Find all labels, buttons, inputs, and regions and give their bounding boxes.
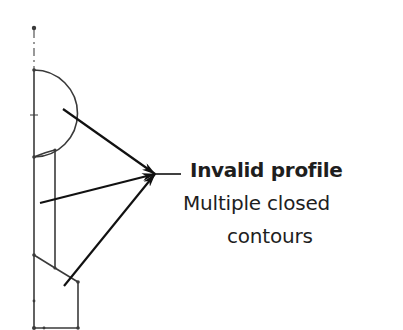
annotation-description-line2: contours [227, 224, 313, 248]
centerline-end-point [32, 26, 36, 30]
annotation-title: Invalid profile [190, 158, 343, 182]
annotation-description-line1: Multiple closed [183, 191, 330, 215]
arrow-to-semicircle [63, 109, 155, 174]
arrow-to-lower-contour [64, 174, 155, 286]
leader-arrows [40, 109, 181, 286]
slant-line-lower [55, 268, 78, 282]
slant-line-upper [34, 255, 55, 268]
arrow-to-middle-contour [40, 174, 155, 203]
centerline [32, 26, 36, 70]
